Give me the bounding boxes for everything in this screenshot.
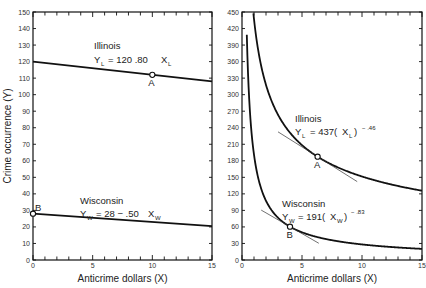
- eq-paren: ): [354, 126, 357, 137]
- y-tick-label: 60: [22, 157, 30, 164]
- y-tick-label: 140: [18, 25, 30, 32]
- y-tick-label: 100: [18, 91, 30, 98]
- x-tick-label: 15: [208, 262, 216, 269]
- y-tick-label: 30: [22, 207, 30, 214]
- illinois-label: Illinois: [94, 40, 121, 51]
- y-tick-label: 360: [227, 58, 239, 65]
- eq-y: Y: [282, 211, 289, 222]
- x-tick-label: 0: [240, 262, 244, 269]
- point-a-label: A: [314, 159, 321, 170]
- y-tick-label: 90: [231, 207, 239, 214]
- eq-y: Y: [94, 54, 101, 65]
- y-tick-label: 420: [227, 25, 239, 32]
- y-tick-label: 210: [227, 141, 239, 148]
- x-tick-label: 0: [31, 262, 35, 269]
- x-tick-label: 5: [300, 262, 304, 269]
- wisconsin-label: Wisconsin: [282, 198, 325, 209]
- wisconsin-exponent: − .83: [351, 209, 365, 215]
- y-tick-label: 330: [227, 75, 239, 82]
- y-axis-title: Crime occurrence (Y): [2, 88, 13, 183]
- y-tick-label: 130: [18, 42, 30, 49]
- illinois-label: Illinois: [295, 113, 322, 124]
- y-tick-label: 90: [22, 108, 30, 115]
- y-tick-label: 450: [227, 9, 239, 16]
- x-tick-label: 15: [418, 262, 426, 269]
- eq-x: X: [342, 126, 349, 137]
- wisconsin-equation: = 28 − .50: [96, 208, 139, 219]
- x-axis-title: Anticrime dollars (X): [77, 273, 167, 284]
- y-tick-label: 30: [231, 240, 239, 247]
- y-tick-label: 0: [26, 257, 30, 264]
- x-axis-title: Anticrime dollars (X): [287, 273, 377, 284]
- y-tick-label: 110: [19, 75, 30, 82]
- eq-sub: W: [87, 215, 93, 221]
- eq-paren: ): [344, 211, 347, 222]
- y-tick-label: 50: [22, 174, 30, 181]
- illinois-equation: = 437(: [310, 126, 338, 137]
- eq-y: Y: [80, 208, 87, 219]
- y-tick-label: 40: [22, 190, 30, 197]
- eq-sub: L: [101, 61, 105, 67]
- figure: 0510150102030405060708090100110120130140…: [0, 0, 426, 288]
- series-curve-illinois: [253, 13, 422, 190]
- point-a-label: A: [148, 77, 155, 88]
- y-tick-label: 60: [231, 223, 239, 230]
- x-tick-label: 5: [91, 262, 95, 269]
- wisconsin-equation: = 191(: [298, 211, 326, 222]
- y-tick-label: 240: [227, 124, 239, 131]
- y-tick-label: 150: [227, 174, 239, 181]
- point-b-label: B: [287, 229, 293, 240]
- wisconsin-label: Wisconsin: [80, 195, 123, 206]
- eq-x: X: [330, 211, 337, 222]
- y-tick-label: 270: [227, 108, 239, 115]
- y-tick-label: 150: [18, 9, 30, 16]
- eq-y: Y: [295, 126, 302, 137]
- plot-frame: [33, 12, 212, 260]
- illinois-equation: = 120 .80: [108, 54, 148, 65]
- y-tick-label: 20: [22, 223, 30, 230]
- y-tick-label: 0: [235, 257, 239, 264]
- x-tick-label: 10: [148, 262, 156, 269]
- eq-sub: W: [337, 218, 343, 224]
- eq-sub: L: [349, 133, 353, 139]
- left-panel: 0510150102030405060708090100110120130140…: [18, 9, 216, 285]
- eq-sub: L: [302, 133, 306, 139]
- eq-sub: L: [168, 61, 172, 67]
- right-panel: 0510150306090120150180210240270300330360…: [227, 9, 426, 285]
- y-tick-label: 180: [227, 157, 239, 164]
- illinois-exponent: − .46: [362, 125, 376, 131]
- y-tick-label: 120: [227, 190, 239, 197]
- eq-x: X: [148, 208, 155, 219]
- eq-x: X: [161, 54, 168, 65]
- y-tick-label: 300: [227, 91, 239, 98]
- eq-sub: W: [289, 218, 295, 224]
- y-tick-label: 120: [18, 58, 30, 65]
- y-tick-label: 80: [22, 124, 30, 131]
- y-tick-label: 390: [227, 42, 239, 49]
- eq-sub: W: [155, 215, 161, 221]
- y-tick-label: 10: [22, 240, 30, 247]
- point-b-label: B: [35, 202, 41, 213]
- y-tick-label: 70: [22, 141, 30, 148]
- x-tick-label: 10: [358, 262, 366, 269]
